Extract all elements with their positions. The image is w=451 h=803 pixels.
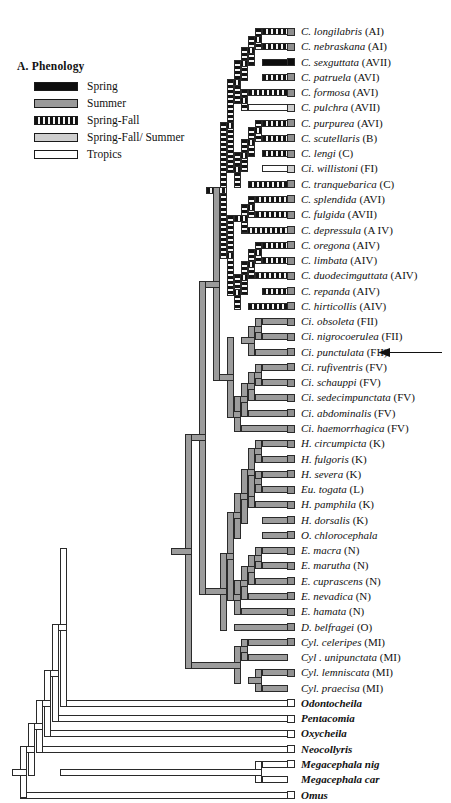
tree-branch-horizontal xyxy=(248,181,288,188)
tip-state-box-sfs xyxy=(287,104,295,112)
tree-branch-horizontal xyxy=(262,486,288,493)
tree-branch-horizontal xyxy=(60,769,262,776)
tree-tip-row: C. pulchra (AVII) xyxy=(287,100,380,115)
tree-tip-row: H. dorsalis (K) xyxy=(287,513,368,528)
tree-tip-row: C. repanda (AIV) xyxy=(287,284,380,299)
tree-tip-row: Cyl . unipunctata (MI) xyxy=(287,650,401,665)
tree-branch-horizontal xyxy=(262,517,288,524)
tree-branch-horizontal xyxy=(262,242,288,249)
tree-tip-row: Megacephala car xyxy=(287,772,380,787)
tree-tip-row: Ci. nigrocoerulea (FII) xyxy=(287,329,402,344)
tree-branch-horizontal xyxy=(255,394,288,401)
tree-branch-horizontal xyxy=(52,715,288,722)
tree-branch-horizontal xyxy=(248,654,288,661)
tip-state-box-summer xyxy=(287,318,295,326)
tree-tip-row: C. sexguttata (AVII) xyxy=(287,55,391,70)
tip-state-box-empty xyxy=(287,776,295,784)
tree-tip-row: C. limbata (AIV) xyxy=(287,253,377,268)
tree-tip-row: C. formosa (AVI) xyxy=(287,85,378,100)
tip-state-box-summer xyxy=(287,409,295,417)
taxon-label: C. duodecimguttata (AIV) xyxy=(301,270,417,281)
tree-branch-horizontal xyxy=(262,43,288,50)
tip-state-box-summer xyxy=(287,638,295,646)
taxon-label: E. nevadica (N) xyxy=(301,591,371,602)
tree-branch-horizontal xyxy=(241,425,288,432)
taxon-label: H. dorsalis (K) xyxy=(301,515,368,526)
tree-branch-horizontal xyxy=(171,548,192,555)
taxon-label: Ci. punctulata (FII) xyxy=(301,347,387,358)
tree-branch-horizontal xyxy=(262,28,288,35)
tree-tip-row: C. hirticollis (AIV) xyxy=(287,299,386,314)
tree-branch-horizontal xyxy=(262,318,288,325)
tree-tip-row: E. cuprascens (N) xyxy=(287,574,381,589)
tree-tip-row: C. purpurea (AVI) xyxy=(287,116,383,131)
tree-branch-horizontal xyxy=(36,746,288,753)
tree-tip-row: O. chlorocephala xyxy=(287,528,378,543)
tip-state-box-summer xyxy=(287,608,295,616)
tree-tip-row: Omus xyxy=(287,788,328,803)
taxon-label: Ci. sedecimpunctata (FV) xyxy=(301,392,415,403)
taxon-label: Ci. obsoleta (FII) xyxy=(301,316,378,327)
tree-tip-row: Ci. abdominalis (FV) xyxy=(287,406,395,421)
tree-branch-horizontal xyxy=(248,639,288,646)
taxon-label: C. hirticollis (AIV) xyxy=(301,301,386,312)
tree-branch-horizontal xyxy=(255,211,288,218)
tip-state-box-empty xyxy=(287,654,295,662)
taxon-label: C. purpurea (AVI) xyxy=(301,118,383,129)
taxon-label: H. fulgoris (K) xyxy=(301,454,367,465)
tip-state-box-summer xyxy=(287,257,295,265)
tip-state-box-spring xyxy=(287,58,295,66)
tree-tip-row: Pentacomia xyxy=(287,711,355,726)
taxon-label: Ci. schauppi (FV) xyxy=(301,377,381,388)
tree-branch-horizontal xyxy=(248,593,288,600)
tree-tip-row: E. nevadica (N) xyxy=(287,589,371,604)
tree-tip-row: C. tranquebarica (C) xyxy=(287,177,394,192)
tip-state-box-summer xyxy=(287,623,295,631)
tip-state-box-trop xyxy=(287,745,295,753)
tip-state-box-summer xyxy=(287,470,295,478)
taxon-label: C. formosa (AVI) xyxy=(301,87,378,98)
taxon-label: Odontocheila xyxy=(301,698,362,709)
taxon-label: Neocollyris xyxy=(301,744,352,755)
tree-tip-row: Ci. punctulata (FII) xyxy=(287,345,387,360)
tip-state-box-summer xyxy=(287,348,295,356)
taxon-label: Cyl. lemniscata (MI) xyxy=(301,667,393,678)
taxon-label: Cyl. praecisa (MI) xyxy=(301,683,383,694)
tree-branch-horizontal xyxy=(262,74,288,81)
taxon-label: Megacephala nig xyxy=(301,759,380,770)
taxon-label: H. circumpicta (K) xyxy=(301,438,385,449)
tree-branch-horizontal xyxy=(241,227,288,234)
tip-state-box-summer xyxy=(287,43,295,51)
tip-state-box-summer xyxy=(287,379,295,387)
tree-branch-horizontal xyxy=(60,700,288,707)
tree-branch-horizontal xyxy=(262,685,288,692)
left-arrow-icon xyxy=(378,347,442,358)
tree-tip-row: H. pamphila (K) xyxy=(287,497,374,512)
tree-tip-row: C. duodecimguttata (AIV) xyxy=(287,268,417,283)
tree-branch-horizontal xyxy=(255,501,288,508)
tip-state-box-empty xyxy=(287,684,295,692)
tree-branch-horizontal xyxy=(262,440,288,447)
tree-tip-row: Ci. sedecimpunctata (FV) xyxy=(287,390,415,405)
tree-tip-row: H. circumpicta (K) xyxy=(287,436,385,451)
tip-state-box-summer xyxy=(287,592,295,600)
tip-state-box-trop xyxy=(287,791,295,799)
tree-branch-horizontal xyxy=(255,349,288,356)
tree-branch-horizontal xyxy=(262,288,288,295)
tip-state-box-summer xyxy=(287,425,295,433)
tree-branch-horizontal xyxy=(262,761,288,768)
tip-state-box-summer xyxy=(287,531,295,539)
tree-branch-horizontal xyxy=(248,303,288,310)
tip-state-box-summer xyxy=(287,516,295,524)
tip-state-box-summer xyxy=(287,363,295,371)
tip-state-box-summer xyxy=(287,287,295,295)
tree-branch-horizontal xyxy=(248,410,288,417)
tip-state-box-summer xyxy=(287,394,295,402)
tree-branch-horizontal xyxy=(234,215,248,222)
taxon-label: Ci. nigrocoerulea (FII) xyxy=(301,331,402,342)
taxon-label: C. pulchra (AVII) xyxy=(301,102,380,113)
tree-tip-row: Cyl. celeripes (MI) xyxy=(287,635,385,650)
tip-state-box-summer xyxy=(287,669,295,677)
tree-tip-row: Eu. togata (L) xyxy=(287,482,364,497)
tree-branch-horizontal xyxy=(262,59,288,66)
